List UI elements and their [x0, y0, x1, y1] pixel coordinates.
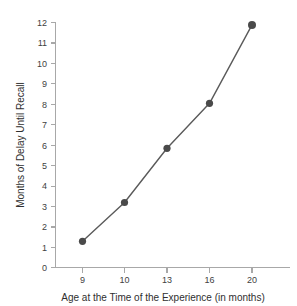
series-line — [83, 25, 253, 241]
x-axis-ticks — [83, 268, 253, 274]
y-tick-label: 8 — [42, 100, 47, 110]
y-tick-label: 5 — [42, 161, 47, 171]
line-chart: 12 11 10 9 8 7 6 5 4 3 2 1 0 9 10 13 — [0, 0, 297, 306]
y-tick-label: 9 — [42, 79, 47, 89]
y-tick-label: 10 — [37, 59, 47, 69]
y-tick-label: 3 — [42, 202, 47, 212]
x-axis-tick-labels: 9 10 13 16 20 — [80, 275, 257, 285]
y-tick-label: 4 — [42, 181, 47, 191]
y-tick-label: 11 — [38, 38, 47, 48]
data-point-marker — [121, 199, 128, 206]
data-point-marker — [206, 100, 213, 107]
series-markers — [79, 21, 256, 245]
y-tick-label: 1 — [42, 243, 47, 253]
x-tick-label: 16 — [204, 275, 214, 285]
y-tick-label: 0 — [42, 263, 47, 273]
y-tick-label: 6 — [42, 141, 47, 151]
x-tick-label: 9 — [80, 275, 85, 285]
y-tick-label: 2 — [42, 222, 47, 232]
x-axis-title: Age at the Time of the Experience (in mo… — [61, 292, 264, 303]
x-tick-label: 10 — [119, 275, 129, 285]
x-tick-label: 20 — [247, 275, 257, 285]
y-axis-title: Months of Delay Until Recall — [15, 82, 26, 208]
y-tick-label: 7 — [42, 120, 47, 130]
data-point-marker — [248, 21, 256, 29]
x-tick-label: 13 — [162, 275, 172, 285]
data-point-marker — [79, 238, 86, 245]
y-tick-label: 12 — [37, 18, 47, 28]
chart-canvas: 12 11 10 9 8 7 6 5 4 3 2 1 0 9 10 13 — [0, 0, 297, 306]
data-point-marker — [163, 145, 170, 152]
y-axis-tick-labels: 12 11 10 9 8 7 6 5 4 3 2 1 0 — [37, 18, 47, 273]
y-axis-ticks — [51, 23, 56, 268]
